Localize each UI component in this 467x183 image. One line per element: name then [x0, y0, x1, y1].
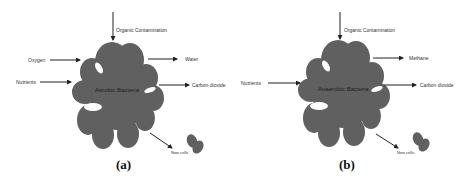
panel-anaerobic: Organic Contamination Nutrients Methane … — [233, 0, 466, 183]
center-label-anaerobic-bacteria: Anaerobic Bacteria — [318, 86, 369, 92]
output-label-carbon-dioxide: Carbon dioxide — [420, 83, 454, 88]
output-label-new-cells: New cells — [171, 151, 188, 155]
panel-aerobic: Organic Contamination Oxygen Nutrients W… — [0, 0, 233, 183]
output-label-water: Water — [185, 57, 198, 62]
output-label-new-cells: New cells — [397, 151, 414, 155]
center-label-aerobic-bacteria: Aerobic Bacteria — [95, 87, 139, 93]
input-label-organic-contamination: Organic Contamination — [344, 28, 395, 33]
input-label-nutrients: Nutrients — [16, 80, 36, 85]
input-label-nutrients: Nutrients — [241, 81, 261, 86]
panel-caption-b: (b) — [339, 158, 355, 171]
panel-caption-a: (a) — [116, 158, 131, 171]
output-label-carbon-dioxide: Carbon dioxide — [192, 83, 226, 88]
output-label-methane: Methane — [409, 56, 428, 61]
input-label-organic-contamination: Organic Contamination — [116, 28, 167, 33]
input-label-oxygen: Oxygen — [28, 58, 45, 63]
bacteria-cluster-icon — [298, 40, 390, 147]
